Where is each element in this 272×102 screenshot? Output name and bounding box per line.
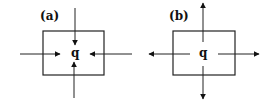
panel-label-a: (a) — [40, 9, 59, 23]
source-symbol-a: q — [71, 46, 80, 60]
diagram-canvas: (a) q (b) q — [0, 0, 272, 102]
source-symbol-b: q — [199, 46, 208, 60]
flux-diagram: (a) q (b) q — [0, 0, 272, 102]
panel-a: (a) q — [20, 8, 132, 98]
panel-b: (b) q — [149, 3, 259, 99]
panel-label-b: (b) — [169, 9, 189, 23]
